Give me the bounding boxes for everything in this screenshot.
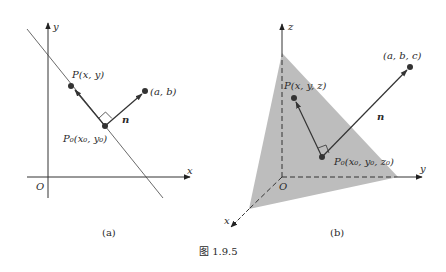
point-normal-end (407, 64, 413, 70)
x-axis-label: x (224, 215, 230, 226)
vector-p0-to-p (75, 90, 105, 126)
right-angle-marker (99, 112, 113, 119)
panel-b-3d-plane: z y x O P(x, y, z) (a, b, c) n P₀(x₀, y₀… (224, 21, 426, 238)
point-normal-end (142, 88, 148, 94)
normal-vector-label: n (122, 114, 129, 125)
origin-label: O (279, 181, 287, 192)
panel-a-label: (a) (102, 227, 116, 238)
normal-vector-label: n (377, 111, 384, 122)
x-axis-label: x (187, 165, 193, 176)
point-p (291, 95, 297, 101)
point-p-label: P(x, y, z) (283, 80, 327, 91)
point-p0-label: P₀(x₀, y₀) (62, 133, 107, 144)
origin-label: O (36, 181, 44, 192)
point-p-label: P(x, y) (71, 69, 104, 80)
y-axis-label: y (52, 21, 59, 32)
point-p0-label: P₀(x₀, y₀, z₀) (333, 156, 394, 167)
x-axis (231, 209, 249, 227)
point-p0 (319, 154, 325, 160)
point-normal-end-label: (a, b) (150, 86, 177, 97)
z-axis-label: z (287, 21, 294, 32)
panel-a-2d-line: y x O P(x, y) (a, b) n P₀(x₀, y₀) (a) (27, 21, 193, 238)
figure-caption: 图 1.9.5 (199, 246, 238, 257)
y-axis-label: y (419, 163, 426, 174)
figure-canvas: y x O P(x, y) (a, b) n P₀(x₀, y₀) (a) z … (0, 0, 446, 272)
point-normal-end-label: (a, b, c) (383, 50, 422, 61)
point-p0 (102, 123, 108, 129)
panel-b-label: (b) (330, 227, 344, 238)
point-p (68, 83, 74, 89)
plane (249, 53, 398, 209)
